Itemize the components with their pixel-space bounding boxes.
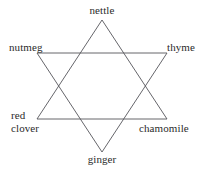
downward-triangle bbox=[37, 53, 167, 152]
star-of-david-shape bbox=[0, 0, 205, 172]
node-label-red-clover: red clover bbox=[11, 109, 39, 134]
node-label-nutmeg: nutmeg bbox=[9, 41, 43, 54]
hexagram-diagram: nettle nutmeg thyme red clover chamomile… bbox=[0, 0, 205, 172]
node-label-thyme: thyme bbox=[147, 41, 195, 54]
node-label-red-clover-line2: clover bbox=[11, 122, 39, 135]
node-label-nettle: nettle bbox=[89, 4, 114, 17]
node-label-red-clover-line1: red bbox=[11, 109, 39, 122]
node-label-chamomile: chamomile bbox=[139, 122, 189, 135]
upward-triangle bbox=[37, 20, 167, 119]
node-label-ginger: ginger bbox=[88, 153, 117, 166]
